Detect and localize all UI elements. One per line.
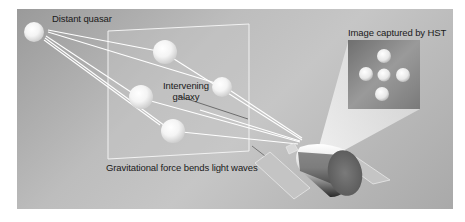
lensed-image-icon (153, 40, 177, 64)
quasar-label: Distant quasar (52, 13, 112, 24)
lensed-image-icon (161, 119, 185, 143)
quasar-icon (24, 22, 44, 42)
galaxy-label: Intervening galaxy (150, 80, 222, 102)
caption-label: Gravitational force bends light waves (106, 162, 258, 173)
galaxy-label-line1: Intervening (150, 80, 222, 91)
galaxy-label-line2: galaxy (150, 91, 222, 102)
solar-panel-icon (286, 143, 298, 154)
inset-title: Image captured by HST (348, 27, 446, 38)
